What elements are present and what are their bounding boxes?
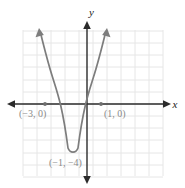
x-axis-arrow-right: [163, 100, 171, 108]
left-x-intercept-dot: [43, 102, 47, 106]
x-axis: [7, 100, 171, 108]
right-x-intercept-dot: [99, 102, 103, 106]
x-axis-arrow-left: [7, 100, 15, 108]
x-axis-label: x: [172, 98, 178, 110]
right-x-intercept-label: (1, 0): [104, 108, 126, 120]
y-axis-arrow-down: [83, 176, 91, 184]
y-axis: [83, 21, 91, 184]
parabola-arrow-right: [102, 28, 110, 37]
left-x-intercept-label: (−3, 0): [19, 108, 46, 120]
parabola-curve: [36, 28, 111, 152]
y-axis-arrow-up: [83, 21, 91, 29]
y-axis-label: y: [88, 6, 94, 18]
coordinate-plane: y x (−3, 0) (1, 0) (−1, −4): [0, 0, 185, 188]
vertex-label: (−1, −4): [49, 157, 82, 169]
graph-figure: y x (−3, 0) (1, 0) (−1, −4): [0, 0, 185, 188]
